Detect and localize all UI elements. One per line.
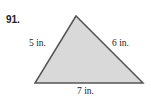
triangle-shape	[35, 16, 143, 83]
bottom-side-label: 7 in.	[77, 86, 94, 96]
triangle-diagram	[0, 0, 151, 103]
right-side-label: 6 in.	[112, 38, 129, 48]
left-side-label: 5 in.	[29, 38, 46, 48]
